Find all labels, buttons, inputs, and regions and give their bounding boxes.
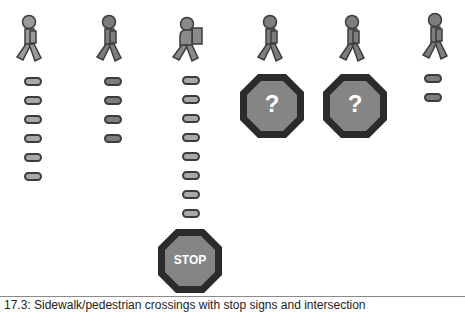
caption-divider [0, 296, 465, 297]
path-dash [104, 96, 122, 105]
path-dash [24, 115, 42, 124]
path-column-5 [337, 0, 377, 290]
path-dash [182, 152, 200, 161]
path-dash [182, 133, 200, 142]
path-dash [24, 77, 42, 86]
stop-sign-label: STOP [157, 253, 223, 267]
path-dash [104, 134, 122, 143]
walking-person-icon [94, 14, 134, 66]
walking-person-with-backpack-icon [172, 14, 212, 66]
walking-person-icon [255, 14, 295, 66]
question-sign-icon: ? [239, 73, 305, 139]
path-column-2 [94, 0, 134, 290]
path-column-1 [14, 0, 54, 290]
figure-caption: 17.3: Sidewalk/pedestrian crossings with… [4, 298, 366, 312]
question-sign-label: ? [239, 90, 305, 118]
walking-person-icon [420, 12, 460, 64]
path-dash [182, 190, 200, 199]
path-dash [104, 77, 122, 86]
path-dash [24, 172, 42, 181]
path-dash [24, 96, 42, 105]
path-column-4 [255, 0, 295, 290]
path-dash [182, 114, 200, 123]
path-dash [182, 95, 200, 104]
walking-person-icon [14, 14, 54, 66]
path-dash [24, 134, 42, 143]
path-dash [182, 171, 200, 180]
path-dash [104, 115, 122, 124]
path-dash [182, 209, 200, 218]
walking-person-icon [337, 14, 377, 66]
path-dash [182, 76, 200, 85]
path-column-6 [420, 0, 460, 290]
question-sign-icon: ? [322, 73, 388, 139]
path-dash [424, 93, 442, 102]
path-dash [424, 74, 442, 83]
stop-sign-icon: STOP [157, 228, 223, 294]
question-sign-label: ? [322, 90, 388, 118]
path-dash [24, 153, 42, 162]
